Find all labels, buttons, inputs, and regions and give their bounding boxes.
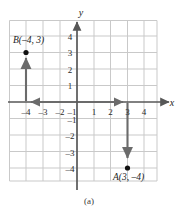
point-marker-b [23, 50, 28, 55]
y-tick-label-2: 2 [68, 65, 73, 75]
y-tick-label-neg1: –1 [67, 115, 77, 125]
coordinate-plane-figure: –4 –3 –2 –1 1 2 3 4 4 3 2 1 –1 –2 –3 –4 … [0, 0, 179, 214]
point-marker-a [125, 165, 130, 170]
x-tick-label-4: 4 [142, 107, 147, 117]
y-tick-label-neg2: –2 [65, 131, 75, 141]
x-tick-label-neg2: –2 [55, 107, 65, 117]
x-axis-label: x [169, 97, 175, 108]
x-tick-label-neg4: –4 [21, 107, 32, 117]
y-tick-label-neg3: –3 [65, 148, 76, 158]
x-tick-label-3: 3 [125, 107, 130, 117]
y-tick-label-1: 1 [68, 81, 73, 91]
x-tick-label-neg3: –3 [38, 107, 49, 117]
figure-caption: (a) [84, 196, 94, 206]
x-tick-label-1: 1 [92, 107, 97, 117]
x-tick-label-2: 2 [108, 107, 113, 117]
point-label-a: A(3, –4) [112, 172, 144, 183]
y-tick-label-neg4: –4 [65, 164, 76, 174]
y-axis-tick-labels: 4 3 2 1 –1 –2 –3 –4 [65, 32, 77, 174]
point-label-b: B(–4, 3) [13, 35, 44, 46]
y-tick-label-3: 3 [68, 48, 73, 58]
x-axis-tick-labels: –4 –3 –2 –1 1 2 3 4 [21, 107, 147, 117]
y-tick-label-4: 4 [68, 32, 73, 42]
y-axis-label: y [78, 7, 84, 18]
